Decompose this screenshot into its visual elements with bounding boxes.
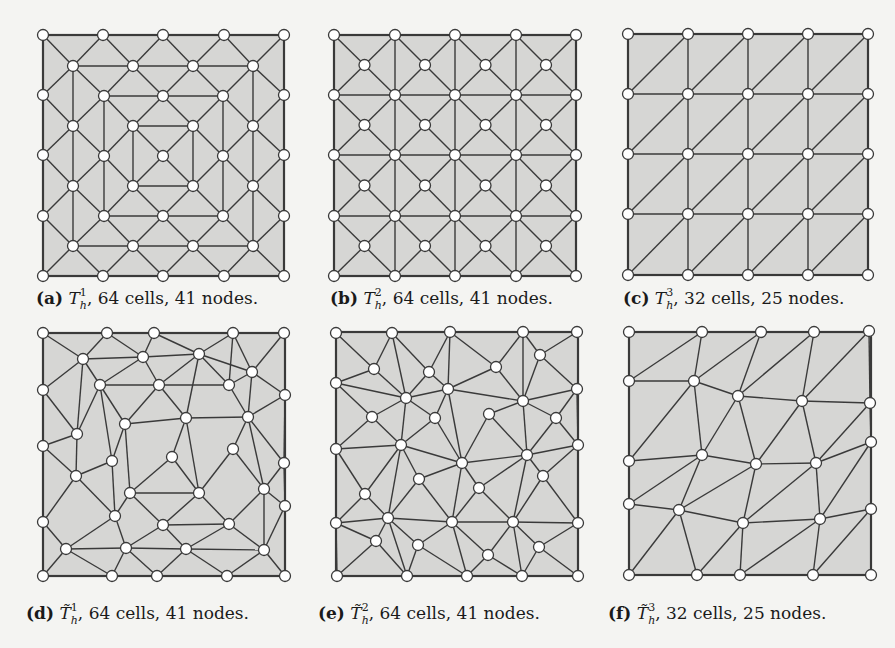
mesh-node bbox=[329, 271, 340, 282]
mesh-panel-e bbox=[331, 327, 584, 582]
caption-superscript: 1 bbox=[80, 286, 87, 299]
caption-superscript: 1 bbox=[71, 601, 78, 614]
caption-symbol: T bbox=[655, 288, 666, 308]
mesh-node bbox=[38, 271, 49, 282]
mesh-node bbox=[367, 412, 378, 423]
mesh-panel-a bbox=[38, 30, 290, 282]
mesh-node bbox=[863, 29, 874, 40]
mesh-node bbox=[623, 270, 634, 281]
mesh-node bbox=[194, 488, 205, 499]
mesh-node bbox=[390, 211, 401, 222]
mesh-edge bbox=[66, 548, 126, 549]
mesh-node bbox=[158, 520, 169, 531]
mesh-node bbox=[158, 30, 169, 41]
mesh-node bbox=[38, 211, 49, 222]
mesh-domain bbox=[629, 332, 871, 575]
mesh-node bbox=[219, 271, 230, 282]
mesh-edge bbox=[163, 524, 229, 525]
mesh-panel-d bbox=[38, 328, 291, 582]
mesh-node bbox=[279, 458, 290, 469]
mesh-node bbox=[866, 570, 877, 581]
caption-symbol: T bbox=[69, 288, 80, 308]
caption-a: (a) T1h, 64 cells, 41 nodes. bbox=[36, 286, 258, 312]
mesh-node bbox=[815, 514, 826, 525]
mesh-node bbox=[743, 29, 754, 40]
mesh-node bbox=[218, 91, 229, 102]
caption-label: (a) bbox=[36, 288, 63, 308]
mesh-node bbox=[484, 409, 495, 420]
mesh-node bbox=[733, 391, 744, 402]
caption-text: , 64 cells, 41 nodes. bbox=[382, 288, 553, 308]
mesh-node bbox=[420, 120, 431, 131]
mesh-node bbox=[420, 180, 431, 191]
mesh-node bbox=[167, 452, 178, 463]
caption-b: (b) T2h, 64 cells, 41 nodes. bbox=[330, 286, 553, 312]
mesh-edge bbox=[76, 434, 77, 476]
mesh-node bbox=[571, 90, 582, 101]
mesh-node bbox=[279, 150, 290, 161]
mesh-node bbox=[863, 149, 874, 160]
mesh-node bbox=[279, 271, 290, 282]
mesh-node bbox=[573, 571, 584, 582]
mesh-node bbox=[280, 390, 291, 401]
mesh-node bbox=[447, 517, 458, 528]
mesh-node bbox=[38, 90, 49, 101]
mesh-node bbox=[390, 90, 401, 101]
mesh-node bbox=[331, 518, 342, 529]
mesh-node bbox=[158, 151, 169, 162]
caption-text: , 64 cells, 41 nodes. bbox=[78, 603, 249, 623]
mesh-node bbox=[623, 29, 634, 40]
mesh-node bbox=[572, 384, 583, 395]
mesh-node bbox=[401, 393, 412, 404]
mesh-node bbox=[683, 29, 694, 40]
caption-text: , 64 cells, 41 nodes. bbox=[87, 288, 258, 308]
mesh-node bbox=[128, 181, 139, 192]
mesh-node bbox=[390, 150, 401, 161]
mesh-node bbox=[188, 121, 199, 132]
mesh-node bbox=[420, 241, 431, 252]
mesh-node bbox=[683, 149, 694, 160]
mesh-node bbox=[420, 60, 431, 71]
mesh-node bbox=[279, 90, 290, 101]
mesh-node bbox=[99, 91, 110, 102]
caption-superscript: 2 bbox=[375, 286, 382, 299]
mesh-node bbox=[624, 327, 635, 338]
mesh-node bbox=[181, 544, 192, 555]
mesh-node bbox=[98, 271, 109, 282]
mesh-node bbox=[329, 90, 340, 101]
mesh-node bbox=[508, 517, 519, 528]
mesh-edge bbox=[513, 522, 578, 523]
mesh-node bbox=[383, 513, 394, 524]
mesh-node bbox=[803, 89, 814, 100]
mesh-node bbox=[78, 354, 89, 365]
mesh-node bbox=[743, 149, 754, 160]
mesh-node bbox=[450, 30, 461, 41]
mesh-node bbox=[518, 327, 529, 338]
mesh-node bbox=[95, 380, 106, 391]
mesh-node bbox=[71, 471, 82, 482]
mesh-node bbox=[445, 327, 456, 338]
mesh-node bbox=[38, 441, 49, 452]
mesh-node bbox=[248, 61, 259, 72]
mesh-node bbox=[689, 376, 700, 387]
mesh-node bbox=[518, 396, 529, 407]
mesh-node bbox=[128, 241, 139, 252]
mesh-node bbox=[756, 327, 767, 338]
caption-subscript: h bbox=[375, 299, 382, 312]
mesh-node bbox=[511, 150, 522, 161]
mesh-node bbox=[450, 90, 461, 101]
mesh-node bbox=[99, 151, 110, 162]
mesh-node bbox=[68, 61, 79, 72]
mesh-node bbox=[248, 241, 259, 252]
caption-e: (e) T̃2h, 64 cells, 41 nodes. bbox=[318, 601, 540, 627]
mesh-node bbox=[414, 474, 425, 485]
mesh-node bbox=[517, 571, 528, 582]
mesh-node bbox=[571, 271, 582, 282]
caption-text: , 32 cells, 25 nodes. bbox=[655, 603, 826, 623]
mesh-node bbox=[864, 326, 875, 337]
mesh-node bbox=[149, 328, 160, 339]
caption-symbol: T bbox=[363, 288, 374, 308]
mesh-node bbox=[154, 380, 165, 391]
mesh-node bbox=[534, 542, 545, 553]
mesh-node bbox=[38, 30, 49, 41]
